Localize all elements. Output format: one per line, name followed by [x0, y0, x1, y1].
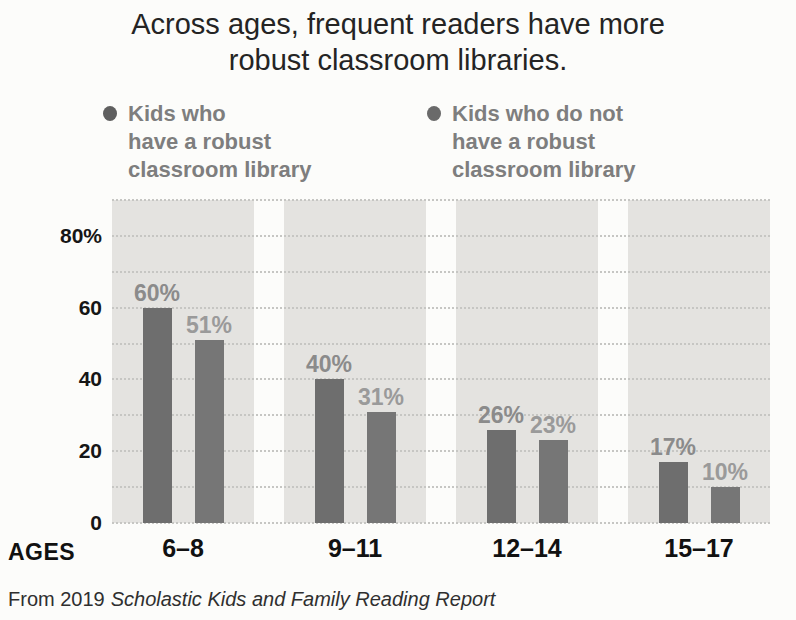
bar-value-12–14-series2: 23%	[530, 413, 576, 437]
bar-15–17-series1	[659, 462, 688, 523]
age-group-label-15–17: 15–17	[628, 534, 770, 563]
y-axis: 020406080%	[0, 200, 104, 523]
gridline-70	[112, 271, 770, 273]
y-tick-label-20: 20	[2, 438, 102, 464]
chart-title-line-1: Across ages, frequent readers have more	[0, 6, 796, 42]
legend-dot-1	[103, 106, 117, 121]
bar-9–11-series2	[367, 412, 396, 523]
y-tick-label-80%: 80%	[2, 223, 102, 249]
legend-dot-2	[427, 106, 441, 121]
source-prefix: From 2019	[8, 588, 105, 610]
page: Across ages, frequent readers have more …	[0, 0, 796, 620]
chart-title-line-2: robust classroom libraries.	[0, 42, 796, 78]
bar-9–11-series1	[315, 379, 344, 523]
legend-item-not-robust: Kids who do not have a robust classroom …	[427, 100, 635, 184]
age-band-9–11: 40%31%9–11	[284, 200, 426, 523]
age-band-12–14: 26%23%12–14	[456, 200, 598, 523]
bar-value-15–17-series1: 17%	[650, 435, 696, 459]
legend-label-not-robust: Kids who do not have a robust classroom …	[452, 100, 635, 184]
age-group-label-12–14: 12–14	[456, 534, 598, 563]
legend-label-robust: Kids who have a robust classroom library	[128, 100, 311, 184]
y-tick-label-0: 0	[2, 510, 102, 536]
source-attribution: From 2019Scholastic Kids and Family Read…	[8, 588, 495, 611]
age-band-6–8: 60%51%6–8	[112, 200, 254, 523]
plot-area: 60%51%6–840%31%9–1126%23%12–1417%10%15–1…	[112, 200, 770, 523]
bar-value-9–11-series1: 40%	[306, 352, 352, 376]
y-tick-label-60: 60	[2, 295, 102, 321]
legend-item-robust: Kids who have a robust classroom library	[103, 100, 311, 184]
bar-6–8-series1	[143, 308, 172, 523]
bar-value-12–14-series1: 26%	[478, 403, 524, 427]
chart-title: Across ages, frequent readers have more …	[0, 6, 796, 78]
x-axis-title: AGES	[8, 539, 75, 566]
gridline-90	[112, 199, 770, 201]
bar-12–14-series1	[487, 430, 516, 523]
y-tick-label-40: 40	[2, 366, 102, 392]
gridline-60	[112, 307, 770, 309]
bar-value-6–8-series1: 60%	[134, 281, 180, 305]
bar-12–14-series2	[539, 440, 568, 523]
bar-15–17-series2	[711, 487, 740, 523]
age-group-label-6–8: 6–8	[112, 534, 254, 563]
age-band-15–17: 17%10%15–17	[628, 200, 770, 523]
source-work-title: Scholastic Kids and Family Reading Repor…	[111, 588, 496, 610]
gridline-80	[112, 235, 770, 237]
bar-value-9–11-series2: 31%	[358, 385, 404, 409]
age-group-label-9–11: 9–11	[284, 534, 426, 563]
bar-value-15–17-series2: 10%	[702, 460, 748, 484]
bar-6–8-series2	[195, 340, 224, 523]
bar-value-6–8-series2: 51%	[186, 313, 232, 337]
